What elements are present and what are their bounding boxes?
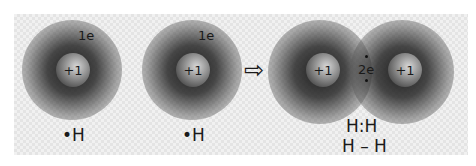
shared-electrons-label: 2e — [358, 62, 374, 77]
atom-label-1: •H — [62, 125, 85, 145]
nucleus-2: +1 — [176, 53, 210, 87]
electron-label-1: 1e — [78, 28, 94, 43]
arrow-right-icon: ⇨ — [244, 56, 264, 84]
electron-dot-bottom — [365, 79, 368, 82]
nucleus-1: +1 — [56, 53, 90, 87]
molecule-nucleus-1: +1 — [306, 53, 340, 87]
lewis-formula: H:H — [346, 116, 377, 136]
atom-label-2: •H — [182, 125, 205, 145]
molecule-nucleus-2: +1 — [388, 53, 422, 87]
electron-dot-top — [365, 55, 368, 58]
structural-formula: H – H — [342, 136, 387, 156]
electron-label-2: 1e — [198, 28, 214, 43]
